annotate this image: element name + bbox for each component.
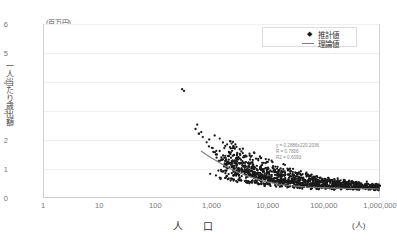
line-marker-icon [302, 43, 314, 44]
y-tick-label: 4 [0, 78, 8, 87]
y-tick-label: 5 [0, 49, 8, 58]
regression-annotation: y = 0.2886x220.2036 R = 0.7806 R2 = 0.60… [276, 143, 319, 162]
y-axis-title: 一人当たり歳出額 [2, 62, 15, 126]
gridline [44, 24, 379, 25]
legend-label-theoretical: 理論値 [318, 38, 352, 49]
dot-marker-icon: ◆ [304, 30, 314, 38]
gridline [44, 169, 379, 170]
x-tick-label: 10,000 [256, 201, 279, 210]
gridline [44, 53, 379, 54]
y-tick-label: 2 [0, 136, 8, 145]
x-tick-label: 100 [149, 201, 162, 210]
y-tick-label: 0 [0, 194, 8, 203]
x-tick-label: 1 [41, 201, 45, 210]
legend-item-theoretical: 理論値 [263, 39, 352, 47]
x-axis-unit-label: (人) [352, 219, 365, 230]
x-tick-label: 10 [95, 201, 103, 210]
plot-area [43, 24, 380, 198]
gridline [44, 111, 379, 112]
y-tick-label: 1 [0, 165, 8, 174]
x-tick-label: 1,000,000 [363, 201, 396, 210]
gridline [44, 82, 379, 83]
chart-legend: ◆ 推計値 理論値 [262, 27, 357, 47]
y-tick-label: 6 [0, 20, 8, 29]
x-tick-label: 100,000 [310, 201, 337, 210]
gridline [44, 140, 379, 141]
x-axis-title: 人 口 [0, 218, 391, 233]
x-tick-label: 1,000 [202, 201, 221, 210]
y-tick-label: 3 [0, 107, 8, 116]
regression-r2: R2 = 0.6093 [276, 155, 319, 161]
